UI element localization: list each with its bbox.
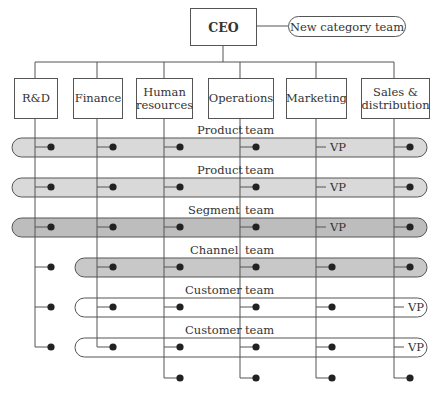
dept-label: Sales & distribution xyxy=(361,86,429,112)
dept-label: Marketing xyxy=(286,92,347,105)
vp-label: VP xyxy=(330,221,346,234)
vp-label: VP xyxy=(408,301,424,314)
team-label-right: team xyxy=(245,324,274,337)
team-label-left: Customer xyxy=(185,324,242,337)
team-label-right: team xyxy=(245,284,274,297)
dept-label: Human resources xyxy=(136,86,193,112)
team-label-right: team xyxy=(245,204,274,217)
dept-human-resources: Human resources xyxy=(136,78,193,119)
new-team-label: New category team xyxy=(290,20,404,34)
dept-label: Operations xyxy=(209,92,273,105)
ceo-box: CEO xyxy=(190,8,257,46)
team-label-left: Segment xyxy=(188,204,240,217)
dept-sales-distribution: Sales & distribution xyxy=(361,78,430,119)
dept-label: R&D xyxy=(22,92,50,105)
dept-rnd: R&D xyxy=(14,78,58,119)
vp-label: VP xyxy=(330,141,346,154)
band-product-2 xyxy=(12,178,427,197)
dept-finance: Finance xyxy=(73,78,123,119)
team-label-left: Product xyxy=(197,124,243,137)
band-segment xyxy=(12,218,427,237)
band-product-1 xyxy=(12,138,427,157)
vp-label: VP xyxy=(330,181,346,194)
team-label-left: Customer xyxy=(185,284,242,297)
team-label-right: team xyxy=(245,164,274,177)
ceo-label: CEO xyxy=(208,21,238,34)
dept-operations: Operations xyxy=(208,78,274,119)
team-label-right: team xyxy=(245,124,274,137)
dept-label: Finance xyxy=(75,92,122,105)
team-label-right: team xyxy=(245,244,274,257)
team-label-left: Product xyxy=(197,164,243,177)
dept-marketing: Marketing xyxy=(286,78,347,119)
new-category-team-pill: New category team xyxy=(288,16,406,37)
vp-label: VP xyxy=(408,341,424,354)
team-label-left: Channel xyxy=(190,244,238,257)
